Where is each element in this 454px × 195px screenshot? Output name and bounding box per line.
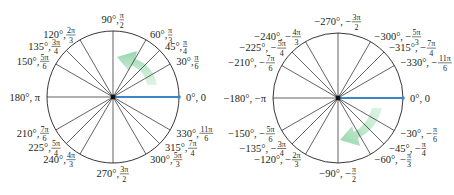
angle-label: 240°, 4π3 xyxy=(43,151,75,170)
angle-label-text: 135°, xyxy=(28,41,51,52)
fraction-denominator: 3 xyxy=(415,38,419,47)
fraction-numerator: 11π xyxy=(200,125,212,134)
angle-label: 270°, 3π2 xyxy=(97,165,129,184)
angle-label-text: 300°, xyxy=(150,154,173,165)
angle-ray xyxy=(292,98,338,144)
angle-label: −150°, −5π6 xyxy=(228,125,275,144)
angle-label: −180°, −π xyxy=(224,93,267,104)
fraction-numerator: π xyxy=(352,165,356,174)
angle-label: 0°, 0 xyxy=(186,92,206,103)
fraction-numerator: 2π xyxy=(292,151,300,160)
fraction-numerator: 11π xyxy=(439,54,451,63)
fraction-denominator: 6 xyxy=(433,135,437,144)
angle-label: 30°, π6 xyxy=(176,53,198,72)
fraction-denominator: 4 xyxy=(422,149,426,158)
fraction-denominator: 6 xyxy=(204,134,208,143)
angle-label-text: −225°, − xyxy=(240,42,277,53)
fraction-denominator: 6 xyxy=(194,62,198,71)
unit-circle-positive-angles: 0°, 030°, π645°, π460°, π390°, π2120°, 2… xyxy=(9,11,213,184)
angle-ray xyxy=(282,98,338,131)
angle-label-text: 210°, xyxy=(17,128,40,139)
angle-ray xyxy=(66,50,113,97)
angle-ray xyxy=(306,42,339,98)
fraction-numerator: π xyxy=(422,140,426,149)
angle-label-text: −210°, − xyxy=(228,57,265,68)
angle-label: −120°, −2π3 xyxy=(254,151,301,170)
fraction-numerator: 7π xyxy=(266,54,274,63)
fraction-numerator: π xyxy=(168,26,172,35)
fraction-denominator: 2 xyxy=(120,21,124,30)
angle-label-text: 180°, π xyxy=(9,92,40,103)
fraction-numerator: π xyxy=(194,53,198,62)
angle-label: −30°, −π6 xyxy=(400,125,437,144)
angle-label-text: 240°, xyxy=(43,154,66,165)
unit-circle-figure: 0°, 030°, π645°, π460°, π390°, π2120°, 2… xyxy=(0,0,454,195)
angle-label-text: −150°, − xyxy=(228,128,265,139)
fraction-denominator: 3 xyxy=(69,36,73,45)
fraction-numerator: 4π xyxy=(292,28,300,37)
angle-label-text: 150°, xyxy=(17,56,40,67)
fraction-numerator: 3π xyxy=(353,13,361,22)
fraction-numerator: 7π xyxy=(41,125,49,134)
angle-label: 0°, 0 xyxy=(410,93,430,104)
fraction-numerator: 5π xyxy=(278,39,286,48)
angle-ray xyxy=(282,66,338,99)
fraction-numerator: 3π xyxy=(52,38,60,47)
angle-label: 150°, 5π6 xyxy=(17,53,49,72)
angle-label: 90°, π2 xyxy=(102,11,124,30)
angle-label-text: −120°, − xyxy=(254,154,291,165)
angle-label: −315°, −7π4 xyxy=(389,39,436,58)
fraction-denominator: 6 xyxy=(43,62,47,71)
fraction-numerator: 3π xyxy=(120,165,128,174)
fraction-numerator: π xyxy=(120,11,124,20)
angle-label-text: −90°, − xyxy=(319,168,351,179)
angle-ray xyxy=(56,97,113,130)
fraction-denominator: 6 xyxy=(443,64,447,73)
angle-ray xyxy=(306,98,339,154)
fraction-denominator: 2 xyxy=(122,175,126,184)
fraction-denominator: 2 xyxy=(355,23,359,32)
angle-label-text: −135°, − xyxy=(240,143,277,154)
fraction-denominator: 3 xyxy=(294,160,298,169)
fraction-numerator: 7π xyxy=(189,139,197,148)
angle-ray xyxy=(113,97,146,154)
fraction-numerator: 5π xyxy=(41,53,49,62)
fraction-denominator: 2 xyxy=(352,175,356,184)
angle-label: −90°, −π2 xyxy=(319,165,356,184)
fraction-denominator: 4 xyxy=(429,49,433,58)
angle-label-text: −60°, − xyxy=(375,154,407,165)
angle-ray xyxy=(338,52,384,98)
fraction-denominator: 3 xyxy=(294,38,298,47)
fraction-denominator: 4 xyxy=(54,47,58,56)
fraction-numerator: 2π xyxy=(67,26,75,35)
angle-label-text: 270°, xyxy=(97,168,120,179)
angle-ray xyxy=(113,97,160,144)
angle-label-text: −315°, − xyxy=(389,42,426,53)
angle-label: 60°, π3 xyxy=(150,26,172,45)
angle-label-text: 315°, xyxy=(165,142,188,153)
angle-label-text: 60°, xyxy=(150,29,167,40)
angle-label-text: −30°, − xyxy=(400,128,432,139)
angle-ray xyxy=(292,52,338,98)
angle-label: −270°, −3π2 xyxy=(314,13,361,32)
angle-label-text: −300°, − xyxy=(375,31,412,42)
fraction-numerator: π xyxy=(183,38,187,47)
angle-label-text: 90°, xyxy=(102,14,119,25)
fraction-denominator: 4 xyxy=(183,47,187,56)
angle-label: −225°, −5π4 xyxy=(240,39,287,58)
angle-label: −330°, −11π6 xyxy=(400,54,451,73)
angle-ray xyxy=(338,42,371,98)
angle-label-text: 225°, xyxy=(28,142,51,153)
fraction-numerator: 5π xyxy=(413,28,421,37)
angle-ray xyxy=(56,64,113,97)
fraction-numerator: 7π xyxy=(427,39,435,48)
fraction-denominator: 4 xyxy=(191,149,195,158)
fraction-denominator: 3 xyxy=(176,160,180,169)
fraction-numerator: π xyxy=(433,125,437,134)
origin-dot xyxy=(111,95,116,100)
initial-point-dot xyxy=(401,96,405,100)
angle-ray xyxy=(80,97,113,154)
angle-label-text: 30°, xyxy=(176,56,193,67)
unit-circle-negative-angles: 0°, 0−330°, −11π6−315°, −7π4−300°, −5π3−… xyxy=(224,13,452,184)
angle-ray xyxy=(113,97,170,130)
